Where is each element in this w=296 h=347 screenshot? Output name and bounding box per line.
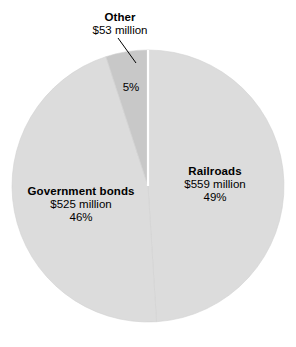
pie-chart-canvas: [0, 0, 296, 347]
pie-slice-railroads: [148, 50, 284, 322]
pie-chart: Other $53 million 5% Railroads $559 mill…: [0, 0, 296, 347]
